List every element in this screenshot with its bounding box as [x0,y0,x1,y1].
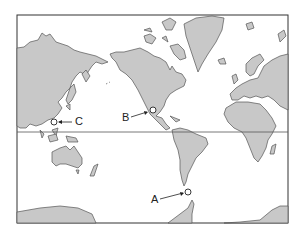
point-c-marker [51,119,57,125]
point-c-label: C [75,116,83,127]
point-b-marker [150,107,156,113]
point-b-label: B [122,112,129,123]
point-a-label: A [151,194,158,205]
point-a-marker [185,189,191,195]
